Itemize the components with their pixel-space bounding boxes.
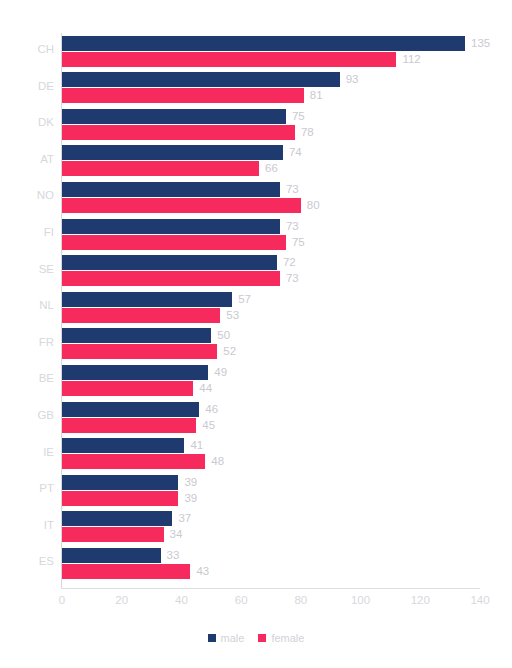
bar-female [62,308,220,323]
bar-value-label: 48 [205,454,224,469]
bar-value-label: 73 [280,271,299,286]
bar-female [62,88,304,103]
legend-label: female [271,632,304,644]
plot-area: 1351129381757874667380737572735753505249… [62,33,480,588]
bar-group: 3734 [62,509,480,546]
bar-male [62,219,280,234]
bar-group: 5753 [62,289,480,326]
bar-value-label: 43 [190,564,209,579]
bar-value-label: 37 [172,511,191,526]
bar-female [62,125,295,140]
bar-male [62,438,184,453]
bar-value-label: 75 [286,235,305,250]
bar-value-label: 53 [220,308,239,323]
bar-male [62,365,208,380]
bar-value-label: 72 [277,255,296,270]
legend-item-male[interactable]: male [208,632,245,644]
bar-value-label: 57 [232,292,251,307]
bar-group: 3343 [62,545,480,582]
bar-male [62,36,465,51]
bar-group: 7380 [62,179,480,216]
bar-female [62,271,280,286]
x-tick-label: 120 [411,594,430,606]
x-tick-label: 0 [59,594,65,606]
bar-male [62,402,199,417]
bar-value-label: 39 [178,475,197,490]
bar-value-label: 135 [465,36,490,51]
category-label: SE [14,263,54,276]
bar-male [62,255,277,270]
bar-value-label: 93 [340,72,359,87]
x-tick-label: 140 [470,594,489,606]
bar-group: 7375 [62,216,480,253]
category-label: GB [14,409,54,422]
bar-group: 7578 [62,106,480,143]
bar-value-label: 52 [217,344,236,359]
bar-value-label: 78 [295,125,314,140]
category-label: CH [14,43,54,56]
bar-female [62,527,164,542]
bar-female [62,491,178,506]
bar-value-label: 41 [184,438,203,453]
bar-value-label: 50 [211,328,230,343]
bar-group: 9381 [62,70,480,107]
bar-female [62,454,205,469]
bar-female [62,381,193,396]
bar-value-label: 80 [301,198,320,213]
bar-male [62,475,178,490]
legend-swatch-icon [258,634,266,642]
bar-male [62,292,232,307]
category-label: IE [14,446,54,459]
bar-chart: 1351129381757874667380737572735753505249… [0,0,512,668]
legend-swatch-icon [208,634,216,642]
bar-female [62,418,196,433]
bar-group: 3939 [62,472,480,509]
bar-value-label: 34 [164,527,183,542]
legend-item-female[interactable]: female [258,632,304,644]
bar-value-label: 73 [280,219,299,234]
category-label: PT [14,482,54,495]
x-tick-label: 100 [351,594,370,606]
x-tick-label: 80 [294,594,307,606]
x-axis-line [61,588,480,589]
bar-value-label: 73 [280,182,299,197]
bar-female [62,235,286,250]
chart-legend: malefemale [0,632,512,644]
x-tick-label: 40 [175,594,188,606]
bar-value-label: 75 [286,109,305,124]
bar-value-label: 112 [396,52,420,67]
bar-value-label: 81 [304,88,323,103]
bar-value-label: 33 [161,548,180,563]
bar-value-label: 39 [178,491,197,506]
bar-female [62,161,259,176]
bar-female [62,52,396,67]
bar-male [62,145,283,160]
bar-value-label: 74 [283,145,302,160]
bar-female [62,564,190,579]
bar-value-label: 46 [199,402,218,417]
bar-male [62,328,211,343]
category-label: NL [14,299,54,312]
legend-label: male [221,632,245,644]
bar-value-label: 49 [208,365,227,380]
bar-group: 4645 [62,399,480,436]
category-label: DK [14,116,54,129]
bar-group: 7466 [62,143,480,180]
bar-male [62,548,161,563]
bar-value-label: 66 [259,161,278,176]
bar-group: 5052 [62,326,480,363]
category-label: FR [14,336,54,349]
x-tick-label: 60 [235,594,248,606]
category-label: FI [14,226,54,239]
bar-group: 4944 [62,362,480,399]
bar-female [62,344,217,359]
bar-value-label: 44 [193,381,212,396]
bar-group: 7273 [62,253,480,290]
bar-value-label: 45 [196,418,215,433]
category-label: AT [14,153,54,166]
bar-female [62,198,301,213]
category-label: BE [14,372,54,385]
category-label: NO [14,189,54,202]
bar-male [62,182,280,197]
category-label: IT [14,519,54,532]
